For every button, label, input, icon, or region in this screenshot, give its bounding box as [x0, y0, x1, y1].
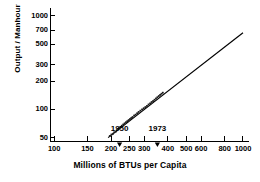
annotation-label: 1950 [111, 124, 129, 133]
x-axis-title: Millions of BTUs per Capita [0, 160, 260, 170]
x-tick-label: 100 [48, 145, 61, 153]
x-tick-label: 1000 [235, 145, 252, 153]
x-tick-label: 600 [195, 145, 208, 153]
y-axis-ticks [50, 16, 55, 138]
trend-line [108, 33, 243, 138]
x-tick-label: 500 [180, 145, 193, 153]
x-tick-label: 150 [81, 145, 94, 153]
x-tick-label: 200 [105, 145, 118, 153]
x-tick-label: 400 [162, 145, 175, 153]
x-tick-label: 250 [123, 145, 136, 153]
axis-lines [50, 8, 249, 141]
chart-canvas [0, 0, 260, 182]
chart-figure: Output / Manhour 501002003005007001000 M… [0, 0, 260, 182]
x-tick-label: 800 [218, 145, 231, 153]
x-axis-ticks [54, 136, 243, 141]
x-tick-label: 300 [138, 145, 151, 153]
annotation-label: 1973 [148, 124, 166, 133]
